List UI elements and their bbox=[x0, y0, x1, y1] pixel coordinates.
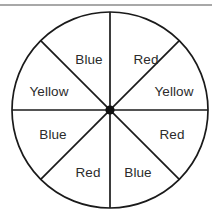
sector-label-left-upper: Yellow bbox=[29, 85, 68, 99]
spinner-figure: Blue Red Yellow Yellow Blue Red Red Blue bbox=[0, 0, 212, 221]
sector-label-top-right: Red bbox=[133, 53, 158, 67]
sector-label-right-upper: Yellow bbox=[154, 85, 193, 99]
sector-label-left-lower: Blue bbox=[39, 128, 66, 142]
spinner-center-hub-dot bbox=[105, 105, 114, 114]
sector-label-bottom-right: Blue bbox=[124, 166, 151, 180]
sector-label-bottom-left: Red bbox=[75, 166, 100, 180]
spinner-wheel-graphic bbox=[0, 0, 212, 221]
sector-label-top-left: Blue bbox=[75, 53, 102, 67]
sector-label-right-lower: Red bbox=[159, 128, 184, 142]
